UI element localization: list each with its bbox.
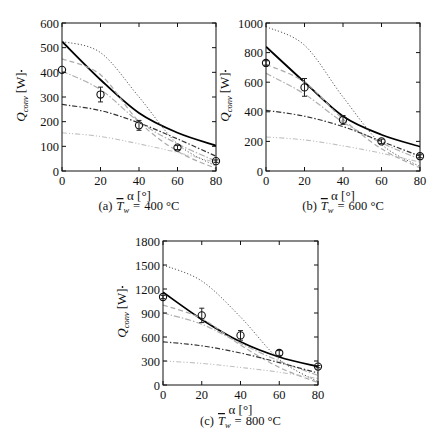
data-point-measured (339, 116, 346, 125)
series-line-model-dashdot-dark (163, 342, 318, 373)
series-line-model-dashdotdot (62, 133, 216, 163)
y-tick-label: 200 (40, 115, 59, 129)
x-tick-label: 0 (160, 388, 166, 402)
caption-value: 600 °C (349, 199, 384, 213)
series-line-model-dashdot-light (62, 71, 216, 161)
y-tick-label: 300 (40, 91, 59, 105)
x-tick-label: 40 (337, 174, 350, 188)
figure: 0204060800100200300400500600α [°]Qconv[W… (0, 0, 443, 446)
caption-value: 400 °C (144, 199, 179, 213)
series-line-model-dashdotdot (163, 361, 318, 379)
data-point-measured (301, 79, 308, 97)
y-tick-label: 1000 (238, 17, 263, 31)
x-tick-label: 60 (273, 388, 286, 402)
y-tick-label: 0 (154, 379, 160, 393)
x-tick-label: 20 (196, 388, 209, 402)
y-tick-label: 100 (40, 140, 59, 154)
subplot-a: 0204060800100200300400500600α [°]Qconv[W… (13, 17, 222, 216)
q-dot-accent (21, 70, 23, 72)
y-label-unit: [W] (13, 72, 28, 93)
y-tick-label: 1500 (135, 259, 160, 273)
x-tick-label: 60 (171, 174, 184, 188)
caption-equals: = (235, 414, 242, 428)
caption-equals: = (337, 199, 344, 213)
series-group (163, 265, 318, 383)
y-label-unit: [W] (114, 288, 129, 309)
data-point-measured (174, 144, 181, 151)
x-tick-label: 80 (312, 388, 325, 402)
subplot-caption: (a)Tw=400 °C (99, 199, 180, 215)
series-line-model-solid (163, 292, 318, 366)
series-line-model-solid (266, 47, 420, 147)
y-tick-label: 400 (40, 66, 59, 80)
series-group (266, 27, 420, 168)
y-axis-label: Qconv[W] (114, 288, 131, 337)
subplot-caption: (b)Tw=600 °C (302, 199, 383, 215)
subplot-b: 02040608002004006008001000α [°]Qconv[W](… (217, 17, 426, 216)
y-tick-label: 900 (141, 307, 160, 321)
y-tick-label: 0 (53, 165, 59, 179)
y-tick-label: 800 (244, 46, 263, 60)
axes-frame (163, 241, 318, 385)
y-label-unit: [W] (217, 72, 232, 93)
caption-equals: = (133, 199, 140, 213)
y-tick-label: 200 (244, 135, 263, 149)
caption-prefix: (b) (302, 199, 317, 213)
caption-prefix: (a) (99, 199, 113, 213)
y-tick-label: 600 (141, 331, 160, 345)
y-axis-label: Qconv[W] (13, 72, 30, 121)
x-tick-label: 0 (59, 174, 65, 188)
caption-prefix: (c) (200, 414, 214, 428)
caption-subscript: w (123, 205, 129, 215)
y-tick-label: 600 (244, 76, 263, 90)
y-label-subscript: conv (224, 96, 234, 112)
y-tick-label: 1200 (135, 283, 160, 297)
data-point-measured (97, 87, 104, 102)
y-tick-label: 400 (244, 105, 263, 119)
caption-value: 800 °C (246, 414, 281, 428)
axes-frame (266, 23, 420, 171)
x-tick-label: 80 (210, 174, 223, 188)
subplot-c: 0204060800300600900120015001800α [°]Qcon… (114, 235, 324, 431)
y-label-subscript: conv (20, 96, 30, 112)
q-dot-accent (122, 286, 124, 288)
x-tick-label: 80 (414, 174, 427, 188)
y-axis-label: Qconv[W] (217, 72, 234, 121)
series-line-model-dotted (163, 265, 318, 382)
x-tick-label: 40 (133, 174, 146, 188)
y-tick-label: 500 (40, 41, 59, 55)
data-point-measured (276, 349, 283, 356)
x-tick-label: 40 (234, 388, 247, 402)
y-tick-label: 300 (141, 355, 160, 369)
caption-subscript: w (328, 205, 334, 215)
data-point-measured (237, 331, 244, 341)
subplot-caption: (c)Tw=800 °C (200, 414, 281, 430)
y-tick-label: 1800 (135, 235, 160, 249)
caption-subscript: w (225, 420, 231, 430)
y-tick-label: 0 (257, 165, 263, 179)
y-tick-label: 600 (40, 17, 59, 31)
q-dot-accent (225, 70, 227, 72)
x-tick-label: 20 (298, 174, 311, 188)
x-tick-label: 60 (375, 174, 388, 188)
series-line-model-dotted (62, 42, 216, 167)
x-tick-label: 20 (94, 174, 107, 188)
x-tick-label: 0 (263, 174, 269, 188)
y-label-subscript: conv (121, 312, 131, 328)
series-group (62, 42, 216, 169)
